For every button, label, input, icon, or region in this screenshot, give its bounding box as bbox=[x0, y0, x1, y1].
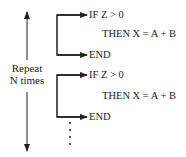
block-2-bracket bbox=[57, 75, 87, 117]
repeat-label: Repeat N times bbox=[0, 62, 54, 86]
block-1-end: END bbox=[89, 49, 111, 61]
repeat-label-line1: Repeat bbox=[0, 62, 54, 74]
block-1-then: THEN X = A + B bbox=[102, 28, 176, 40]
block-2-if: IF Z > 0 bbox=[89, 69, 124, 81]
continuation-dots bbox=[69, 122, 71, 145]
block-1-bracket bbox=[57, 15, 87, 55]
block-2-then: THEN X = A + B bbox=[102, 90, 176, 102]
repeat-label-line2: N times bbox=[0, 74, 54, 86]
block-2-end: END bbox=[89, 111, 111, 123]
block-1-if: IF Z > 0 bbox=[89, 9, 124, 21]
